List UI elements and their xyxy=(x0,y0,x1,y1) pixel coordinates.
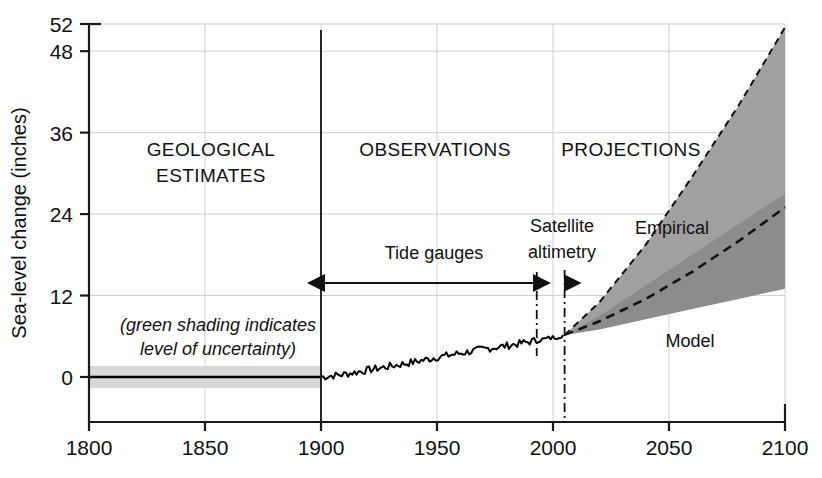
sea-level-chart: 01224364852 1800185019001950200020502100… xyxy=(0,0,822,478)
y-tick-label-0: 0 xyxy=(61,366,73,389)
x-tick-label-2100: 2100 xyxy=(762,436,809,459)
y-tick-label-24: 24 xyxy=(50,203,74,226)
y-tick-label-36: 36 xyxy=(50,122,73,145)
x-tick-label-1950: 1950 xyxy=(414,436,461,459)
tide-gauges-label: Tide gauges xyxy=(385,243,483,263)
satellite-altimetry-label-line2: altimetry xyxy=(528,242,596,262)
x-tick-label-1850: 1850 xyxy=(182,436,229,459)
uncertainty-note-line1: (green shading indicates xyxy=(120,315,316,335)
y-axis-ticks: 01224364852 xyxy=(50,13,89,389)
x-tick-label-1800: 1800 xyxy=(66,436,113,459)
chart-canvas: 01224364852 1800185019001950200020502100… xyxy=(0,0,822,478)
era-label-geological-line2: ESTIMATES xyxy=(156,165,266,186)
x-tick-label-2000: 2000 xyxy=(530,436,577,459)
y-tick-label-48: 48 xyxy=(50,40,73,63)
era-label-geological-line1: GEOLOGICAL xyxy=(147,139,276,160)
x-tick-label-1900: 1900 xyxy=(298,436,345,459)
era-label-observations: OBSERVATIONS xyxy=(359,139,511,160)
series-label-model: Model xyxy=(665,331,714,351)
y-tick-label-52: 52 xyxy=(50,13,73,36)
satellite-altimetry-label-line1: Satellite xyxy=(530,216,594,236)
series-label-empirical: Empirical xyxy=(635,218,709,238)
y-tick-label-12: 12 xyxy=(50,285,73,308)
uncertainty-note-line2: level of uncertainty) xyxy=(140,339,296,359)
x-tick-label-2050: 2050 xyxy=(646,436,693,459)
y-axis-title: Sea-level change (inches) xyxy=(8,107,30,338)
era-label-projections: PROJECTIONS xyxy=(561,139,701,160)
x-axis-ticks: 1800185019001950200020502100 xyxy=(66,422,809,459)
